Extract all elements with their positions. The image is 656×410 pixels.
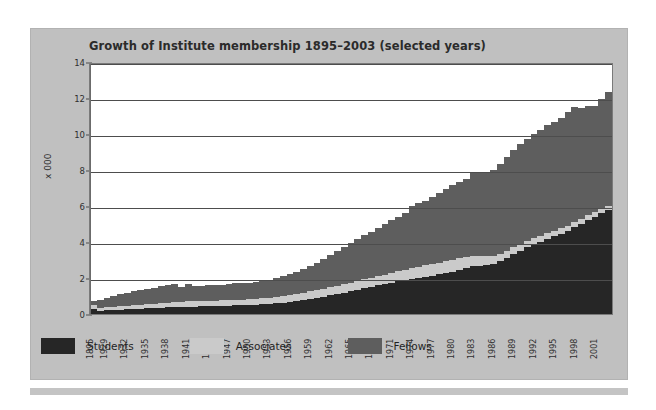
y-tick-label: 8 xyxy=(80,166,85,176)
legend-label: Fellows xyxy=(394,340,432,352)
x-tick-label: 1998 xyxy=(570,339,579,359)
plot-inner xyxy=(90,64,612,314)
chart-legend: StudentsAssociatesFellows xyxy=(41,331,488,361)
y-axis-tick-labels: 02468101214 xyxy=(61,63,85,315)
gridline xyxy=(90,208,612,209)
gridline xyxy=(90,64,612,65)
legend-item-fellows[interactable]: Fellows xyxy=(348,338,432,354)
legend-label: Students xyxy=(87,340,134,352)
gridline xyxy=(90,136,612,137)
legend-swatch-fellows xyxy=(348,338,382,354)
footer-strip xyxy=(30,388,628,395)
y-tick-label: 2 xyxy=(80,274,85,284)
legend-swatch-students xyxy=(41,338,75,354)
gridline xyxy=(90,100,612,101)
x-tick-label: 1986 xyxy=(488,339,497,359)
gridline xyxy=(90,280,612,281)
plot-area xyxy=(89,63,613,315)
y-tick-label: 10 xyxy=(74,130,85,140)
legend-label: Associates xyxy=(236,340,292,352)
chart-title: Growth of Institute membership 1895–2003… xyxy=(89,39,486,53)
x-tick-label: 2001 xyxy=(590,339,599,359)
stacked-area-series xyxy=(90,64,612,314)
legend-item-associates[interactable]: Associates xyxy=(190,338,292,354)
chart-page: Growth of Institute membership 1895–2003… xyxy=(0,0,656,410)
y-axis-label: x 000 xyxy=(43,154,53,179)
y-tick-label: 14 xyxy=(74,58,85,68)
y-tick-label: 12 xyxy=(74,94,85,104)
chart-panel: Growth of Institute membership 1895–2003… xyxy=(30,28,628,380)
y-axis-line xyxy=(90,64,91,314)
legend-item-students[interactable]: Students xyxy=(41,338,134,354)
x-tick-label: 1995 xyxy=(549,339,558,359)
legend-swatch-associates xyxy=(190,338,224,354)
gridline xyxy=(90,244,612,245)
gridline xyxy=(90,172,612,173)
y-tick-label: 4 xyxy=(80,238,85,248)
plot-frame xyxy=(89,63,613,315)
x-tick-label: 1992 xyxy=(529,339,538,359)
y-tick-label: 0 xyxy=(80,310,85,320)
y-tick-label: 6 xyxy=(80,202,85,212)
x-tick-label: 1989 xyxy=(508,339,517,359)
